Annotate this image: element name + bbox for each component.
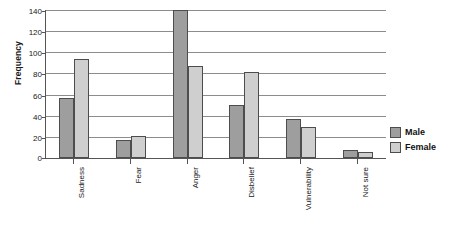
x-axis-label-not-sure: Not sure [361, 167, 370, 197]
bar-group [286, 10, 316, 158]
bar [188, 66, 203, 158]
bar [116, 140, 131, 158]
bars-layer [46, 10, 386, 158]
bar [358, 152, 373, 158]
x-axis-label-vulnerability: Vulnerability [304, 167, 313, 210]
bar [343, 150, 358, 158]
x-axis-label-fear: Fear [134, 167, 143, 183]
legend-swatch-female-icon [390, 142, 401, 153]
x-axis-label-disbelief: Disbelief [247, 167, 256, 198]
x-tick-mark [130, 159, 131, 164]
bar [229, 105, 244, 158]
legend-item-male: Male [390, 126, 450, 138]
bar-chart-figure: Frequency 020406080100120140 SadnessFear… [0, 0, 452, 226]
x-axis-label-sadness: Sadness [77, 167, 86, 198]
bar-group [173, 10, 203, 158]
bar-group [229, 10, 259, 158]
bar [286, 119, 301, 158]
bar [301, 127, 316, 158]
x-tick-mark [243, 159, 244, 164]
y-tick-label-100: 100 [29, 49, 42, 58]
plot-area: 020406080100120140 [45, 10, 386, 159]
legend-item-female: Female [390, 141, 450, 153]
y-tick-mark-0 [42, 158, 46, 159]
x-axis-label-anger: Anger [191, 167, 200, 188]
x-tick-mark [187, 159, 188, 164]
y-tick-label-80: 80 [33, 70, 42, 79]
bar [173, 10, 188, 158]
bar-group [343, 10, 373, 158]
y-tick-label-120: 120 [29, 28, 42, 37]
y-tick-label-60: 60 [33, 91, 42, 100]
x-tick-mark [73, 159, 74, 164]
bar [74, 59, 89, 158]
legend-label-male: Male [405, 127, 425, 137]
x-tick-mark [357, 159, 358, 164]
bar-group [59, 10, 89, 158]
x-tick-mark [300, 159, 301, 164]
bar [131, 136, 146, 158]
y-axis-title: Frequency [13, 23, 23, 103]
bar [244, 72, 259, 158]
bar [59, 98, 74, 158]
legend-swatch-male-icon [390, 127, 401, 138]
y-tick-label-20: 20 [33, 133, 42, 142]
legend: Male Female [390, 126, 450, 156]
y-tick-label-140: 140 [29, 7, 42, 16]
bar-group [116, 10, 146, 158]
y-tick-label-40: 40 [33, 112, 42, 121]
legend-label-female: Female [405, 142, 436, 152]
